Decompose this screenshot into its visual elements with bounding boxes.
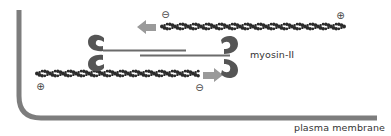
diagram-canvas: ⊖ ⊕ ⊕ ⊖ myosin-II plasma membrane [0,0,391,136]
myosin-ii-head-right [221,36,238,78]
minus-end-marker-top: ⊖ [160,10,171,21]
minus-end-marker-bottom: ⊖ [194,83,205,94]
myosin-ii-head-left [88,35,104,72]
plus-end-marker-top: ⊕ [335,11,346,22]
actin-filament-bottom [35,70,200,78]
plasma-membrane-label: plasma membrane [294,122,385,133]
plus-end-marker-bottom: ⊕ [35,82,46,93]
actin-filament-top [160,23,346,31]
arrow-right-icon [203,68,223,82]
myosin-ii-tail [103,51,230,56]
myosin-ii-label: myosin-II [250,49,294,60]
arrow-left-icon [137,20,156,34]
